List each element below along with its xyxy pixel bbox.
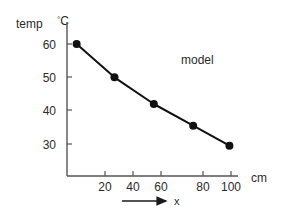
data-point-marker [150, 100, 158, 108]
axis-lines [67, 22, 238, 176]
data-point-marker [73, 40, 81, 48]
plot-area [0, 0, 286, 220]
data-series-markers [73, 40, 234, 150]
data-point-marker [110, 73, 118, 81]
chart-figure: temp °C 60 50 40 30 20 40 60 80 100 cm m… [0, 0, 286, 220]
data-point-marker [225, 142, 233, 150]
x-axis-ticks [105, 171, 231, 176]
data-point-marker [189, 122, 197, 130]
data-series-line [77, 44, 230, 146]
y-axis-ticks [67, 44, 72, 144]
